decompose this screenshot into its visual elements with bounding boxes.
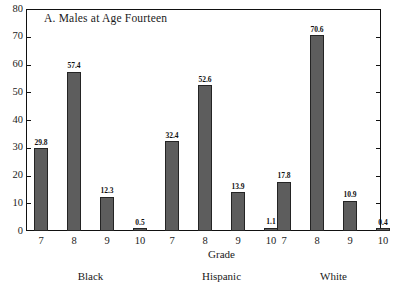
x-axis-title: Grade	[192, 248, 252, 260]
y-axis-tick-label: 0	[1, 226, 23, 236]
group-label: White	[294, 270, 374, 282]
x-axis-tick-label: 8	[303, 235, 331, 246]
bar	[67, 72, 81, 231]
y-axis-tick-label: 40	[1, 115, 23, 125]
bar	[100, 197, 114, 231]
y-axis-tick-label: 80	[1, 4, 23, 14]
bar	[277, 182, 291, 231]
y-axis-tick-mark-right	[376, 203, 381, 204]
y-axis-tick-mark-right	[376, 120, 381, 121]
x-axis-tick-label: 7	[270, 235, 298, 246]
chart-title: A. Males at Age Fourteen	[44, 12, 167, 24]
y-axis-labels: 01020304050607080	[0, 0, 23, 294]
y-axis-tick-mark	[26, 148, 31, 149]
y-axis-tick-label: 10	[1, 198, 23, 208]
x-axis-tick-label: 8	[60, 235, 88, 246]
x-axis-tick-label: 8	[191, 235, 219, 246]
x-axis-tick-label: 9	[93, 235, 121, 246]
y-axis-tick-mark	[26, 203, 31, 204]
bar-value-label: 0.4	[369, 219, 397, 227]
x-axis-tick-label: 10	[126, 235, 154, 246]
bar	[264, 228, 278, 231]
bar-value-label: 52.6	[191, 76, 219, 84]
bar-value-label: 13.9	[224, 183, 252, 191]
y-axis-tick-mark	[26, 176, 31, 177]
y-axis-tick-label: 60	[1, 59, 23, 69]
x-axis-tick-label: 9	[336, 235, 364, 246]
group-label: Hispanic	[182, 270, 262, 282]
x-axis-tick-label: 9	[224, 235, 252, 246]
x-axis-tick-label: 7	[27, 235, 55, 246]
y-axis-tick-label: 20	[1, 170, 23, 180]
y-axis-tick-mark	[26, 65, 31, 66]
figure: A. Males at Age Fourteen 010203040506070…	[0, 0, 399, 294]
y-axis-tick-mark	[26, 37, 31, 38]
bar	[231, 192, 245, 231]
y-axis-tick-mark-right	[376, 148, 381, 149]
y-axis-tick-label: 50	[1, 87, 23, 97]
bar-value-label: 57.4	[60, 62, 88, 70]
bar	[310, 35, 324, 231]
bar-value-label: 70.6	[303, 26, 331, 34]
bar-value-label: 17.8	[270, 172, 298, 180]
y-axis-tick-mark-right	[376, 176, 381, 177]
bar	[165, 141, 179, 231]
bar	[34, 148, 48, 231]
y-axis-tick-label: 30	[1, 142, 23, 152]
y-axis-tick-mark	[26, 92, 31, 93]
x-axis-tick-label: 10	[369, 235, 397, 246]
y-axis-tick-mark-right	[376, 65, 381, 66]
y-axis-tick-mark-right	[376, 37, 381, 38]
group-label: Black	[51, 270, 131, 282]
bar	[376, 228, 390, 231]
y-axis-tick-label: 70	[1, 31, 23, 41]
bar-value-label: 10.9	[336, 191, 364, 199]
y-axis-tick-mark	[26, 120, 31, 121]
bar-value-label: 0.5	[126, 219, 154, 227]
x-axis-tick-label: 7	[158, 235, 186, 246]
bar-value-label: 12.3	[93, 187, 121, 195]
bar	[198, 85, 212, 231]
bar	[133, 228, 147, 231]
bar-value-label: 32.4	[158, 132, 186, 140]
y-axis-tick-mark-right	[376, 92, 381, 93]
bar	[343, 201, 357, 231]
bar-value-label: 29.8	[27, 139, 55, 147]
